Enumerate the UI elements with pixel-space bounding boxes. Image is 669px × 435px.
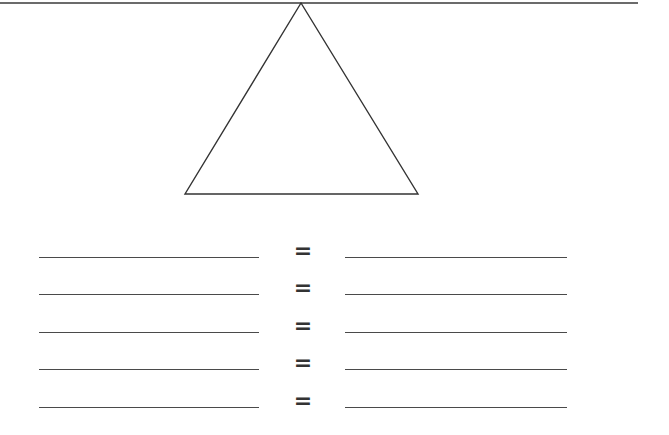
left-blank-line[interactable] — [39, 332, 259, 333]
right-blank-line[interactable] — [345, 294, 567, 295]
right-blank-line[interactable] — [345, 332, 567, 333]
right-blank-line[interactable] — [345, 369, 567, 370]
left-blank-line[interactable] — [39, 257, 259, 258]
right-blank-line[interactable] — [345, 257, 567, 258]
worksheet: = = = = = — [0, 0, 669, 435]
equals-sign: = — [293, 352, 313, 374]
equals-sign: = — [293, 390, 313, 412]
equation-row-2: = — [0, 277, 669, 307]
equals-sign: = — [293, 315, 313, 337]
right-blank-line[interactable] — [345, 407, 567, 408]
triangle-diagram — [0, 0, 669, 210]
equation-row-1: = — [0, 240, 669, 270]
left-blank-line[interactable] — [39, 369, 259, 370]
equation-row-5: = — [0, 390, 669, 420]
left-blank-line[interactable] — [39, 407, 259, 408]
equation-row-4: = — [0, 352, 669, 382]
equals-sign: = — [293, 277, 313, 299]
left-blank-line[interactable] — [39, 294, 259, 295]
equals-sign: = — [293, 240, 313, 262]
equation-row-3: = — [0, 315, 669, 345]
triangle-shape — [185, 3, 418, 194]
